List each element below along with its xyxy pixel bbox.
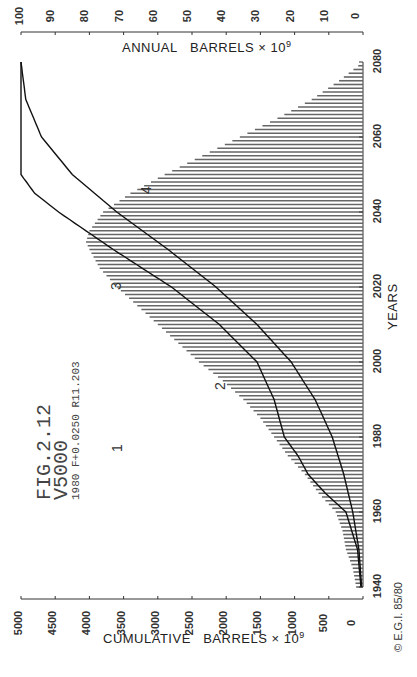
annual-tick-label: 90: [44, 10, 56, 22]
cumulative-tick-label: 3500: [115, 611, 127, 635]
curve-label-2: 2: [212, 382, 228, 390]
cumulative-tick-label: 1500: [252, 611, 264, 635]
annual-tick-label: 0: [349, 13, 361, 19]
figure-annotation: FIG.2.12 V5000 1980 F+0.0250 R11.203: [36, 361, 83, 500]
annual-tick-label: 60: [147, 10, 159, 22]
curve-label-3: 3: [108, 282, 124, 290]
year-tick-label: 1960: [371, 499, 383, 523]
cumulative-tick-label: 4000: [81, 611, 93, 635]
annual-tick-label: 30: [250, 10, 262, 22]
year-tick-label: 2020: [371, 274, 383, 298]
year-tick-label: 2060: [371, 124, 383, 148]
cumulative-tick-label: 2500: [183, 611, 195, 635]
cumulative-tick-label: 4500: [46, 611, 58, 635]
year-tick-label: 1940: [371, 574, 383, 598]
cumulative-axis-title: CUMULATIVE BARRELS × 109: [103, 630, 305, 646]
year-tick-label: 2040: [371, 199, 383, 223]
annual-tick-label: 40: [215, 10, 227, 22]
annual-tick-label: 10: [318, 10, 330, 22]
cumulative-tick-label: 0: [345, 620, 357, 626]
curve-label-1: 1: [109, 444, 125, 452]
annual-axis-title: ANNUAL BARRELS × 109: [122, 39, 292, 55]
cumulative-tick-label: 2000: [217, 611, 229, 635]
annual-tick-label: 50: [181, 10, 193, 22]
year-tick-label: 2080: [371, 49, 383, 73]
cumulative-tick-label: 5000: [12, 611, 24, 635]
curve-label-4: 4: [138, 186, 154, 194]
params-label: 1980 F+0.0250 R11.203: [70, 361, 83, 500]
chart-plot-area: [0, 0, 417, 677]
copyright-label: © E.G.I. 85/80: [392, 582, 404, 652]
annual-tick-label: 20: [284, 10, 296, 22]
annual-tick-label: 100: [13, 7, 25, 25]
year-tick-label: 1980: [371, 424, 383, 448]
cumulative-tick-label: 3000: [149, 611, 161, 635]
year-tick-label: 2000: [371, 349, 383, 373]
annual-tick-label: 80: [79, 10, 91, 22]
cumulative-tick-label: 1000: [286, 611, 298, 635]
cumulative-tick-label: 500: [317, 614, 329, 632]
annual-tick-label: 70: [113, 10, 125, 22]
years-axis-title: YEARS: [385, 283, 400, 330]
